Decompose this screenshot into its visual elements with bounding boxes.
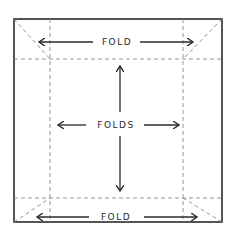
center-folds-label: FOLDS bbox=[97, 120, 134, 130]
top-fold-label: FOLD bbox=[102, 37, 132, 47]
bottom-fold-label: FOLD bbox=[101, 212, 131, 222]
fold-diagram: FOLD FOLDS FOLD bbox=[0, 0, 236, 249]
